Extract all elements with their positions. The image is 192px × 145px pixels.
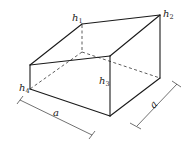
dimension-label-right: a xyxy=(147,98,159,110)
dimension-tick-front-end xyxy=(89,131,95,139)
dimension-tick-front-start xyxy=(17,96,23,104)
label-h1: h1 xyxy=(72,12,83,25)
label-h3: h3 xyxy=(99,75,110,88)
label-h4: h4 xyxy=(19,82,30,95)
top-edge-left xyxy=(30,24,82,65)
dimension-label-front: a xyxy=(53,107,59,118)
top-edge-back xyxy=(82,15,160,24)
base-edge-right xyxy=(110,78,160,116)
top-edge-right xyxy=(110,15,160,56)
hidden-edges xyxy=(30,25,160,89)
visible-edges xyxy=(30,15,160,116)
base-edge-front xyxy=(30,89,110,116)
dimension-tick-right-end xyxy=(172,81,181,87)
label-h2: h2 xyxy=(163,8,174,21)
top-edge-front xyxy=(30,56,110,65)
prism-diagram: a a h1 h2 h3 h4 xyxy=(0,0,192,145)
dimension-front: a xyxy=(17,96,95,139)
dimension-right: a xyxy=(130,81,181,129)
hidden-edge-back-left xyxy=(30,52,82,89)
hidden-edge-back-right xyxy=(82,52,160,78)
